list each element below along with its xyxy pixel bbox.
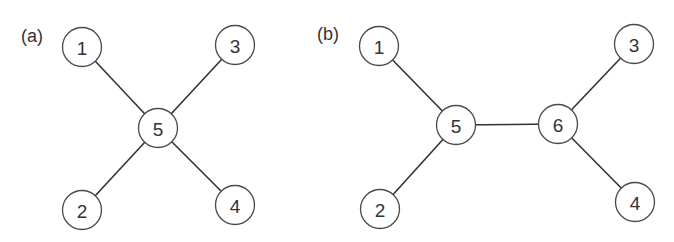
node-1: 1	[360, 27, 399, 66]
panel-a-nodes: 13524	[63, 26, 255, 230]
node-label: 5	[153, 119, 164, 140]
node-6: 6	[539, 105, 578, 144]
node-5: 5	[139, 109, 178, 148]
node-5: 5	[437, 106, 476, 145]
node-2: 2	[63, 191, 102, 230]
panel-a-star-tree: (a) 13524	[21, 26, 255, 230]
node-label: 6	[553, 115, 564, 136]
node-4: 4	[216, 186, 255, 225]
node-4: 4	[616, 183, 655, 222]
node-label: 1	[77, 38, 88, 59]
panel-b-binary-tree: (b) 125634	[317, 24, 655, 229]
panel-b-label: (b)	[317, 24, 339, 44]
panel-b-nodes: 125634	[360, 25, 655, 229]
node-label: 3	[629, 35, 640, 56]
panel-a-label: (a)	[21, 26, 43, 46]
panel-b-edges	[379, 44, 635, 209]
node-label: 5	[451, 116, 462, 137]
node-label: 4	[630, 193, 641, 214]
node-1: 1	[63, 28, 102, 67]
node-3: 3	[615, 25, 654, 64]
node-3: 3	[216, 26, 255, 65]
node-2: 2	[361, 190, 400, 229]
node-label: 2	[77, 201, 88, 222]
node-label: 3	[230, 36, 241, 57]
diagram-svg: (a) 13524 (b) 125634	[0, 0, 674, 242]
node-label: 2	[375, 200, 386, 221]
node-label: 1	[374, 37, 385, 58]
node-label: 4	[230, 196, 241, 217]
tree-diagram-figure: (a) 13524 (b) 125634	[0, 0, 674, 242]
